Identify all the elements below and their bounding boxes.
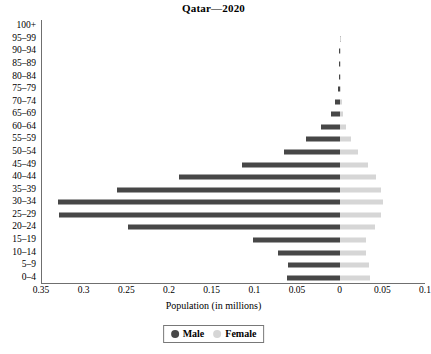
female-bar <box>340 212 382 217</box>
male-bar <box>117 187 340 192</box>
male-bar <box>306 137 340 142</box>
y-axis-tick-label: 80–84 <box>12 72 36 82</box>
female-bar <box>340 162 368 167</box>
x-axis-tick-label: 0.25 <box>118 285 135 296</box>
bar-row <box>41 33 425 46</box>
y-axis-tick-label: 90–94 <box>12 46 36 56</box>
bar-row <box>41 234 425 247</box>
y-axis-tick-label: 50–54 <box>12 147 36 157</box>
male-bar <box>284 149 339 154</box>
plot-area <box>41 20 425 284</box>
female-bar <box>340 124 346 129</box>
female-bar <box>340 175 377 180</box>
y-axis-tick-label: 100+ <box>16 21 36 31</box>
y-axis-tick-label: 25–29 <box>12 210 36 220</box>
y-axis-tick-label: 75–79 <box>12 84 36 94</box>
y-axis-tick-label: 70–74 <box>12 97 36 107</box>
y-axis-tick-label: 45–49 <box>12 160 36 170</box>
x-axis-tick-label: 0.1 <box>248 285 260 296</box>
x-axis-tick-label: 0.05 <box>289 285 306 296</box>
bar-row <box>41 259 425 272</box>
male-bar <box>321 124 339 129</box>
y-axis-tick-label: 85–89 <box>12 59 36 69</box>
bar-row <box>41 45 425 58</box>
bar-row <box>41 246 425 259</box>
female-bar <box>340 225 376 230</box>
female-bar <box>340 275 370 280</box>
female-bar <box>340 87 341 92</box>
chart-title: Qatar—2020 <box>0 2 427 14</box>
female-bar <box>340 237 366 242</box>
bar-row <box>41 196 425 209</box>
male-bar <box>287 275 340 280</box>
bar-row <box>41 95 425 108</box>
female-bar <box>340 263 369 268</box>
bar-row <box>41 146 425 159</box>
female-bar <box>340 187 381 192</box>
female-bar <box>340 112 343 117</box>
y-axis-tick-label: 5–9 <box>22 260 36 270</box>
female-bar <box>340 99 342 104</box>
bar-row <box>41 271 425 284</box>
legend-entry-female: Female <box>213 328 256 339</box>
male-bar <box>288 263 340 268</box>
male-bar <box>331 112 340 117</box>
x-axis-tick-label: 0.35 <box>33 285 50 296</box>
legend-label-female: Female <box>225 328 256 339</box>
bar-row <box>41 108 425 121</box>
bar-row <box>41 83 425 96</box>
x-axis-tick-label: 0.05 <box>374 285 391 296</box>
female-bar <box>340 137 352 142</box>
y-axis-tick-label: 65–69 <box>12 109 36 119</box>
bar-row <box>41 121 425 134</box>
y-axis-tick-label: 55–59 <box>12 134 36 144</box>
bar-row <box>41 70 425 83</box>
x-axis-tick-label: 0.15 <box>203 285 220 296</box>
male-bar <box>128 225 340 230</box>
x-axis-tick-label: 0 <box>337 285 342 296</box>
bar-row <box>41 171 425 184</box>
male-swatch-icon <box>171 330 179 338</box>
x-axis-tick-label: 0.2 <box>163 285 175 296</box>
bar-row <box>41 58 425 71</box>
legend-label-male: Male <box>183 328 205 339</box>
bar-row <box>41 20 425 33</box>
legend-entry-male: Male <box>171 328 205 339</box>
female-bar <box>340 74 341 79</box>
male-bar <box>278 250 339 255</box>
y-axis-tick-labels: 100+95–9990–9485–8980–8475–7970–7465–696… <box>0 20 39 284</box>
bar-row <box>41 209 425 222</box>
x-axis-tick-labels: 0.350.30.250.20.150.10.0500.050.1 <box>0 285 427 299</box>
y-axis-tick-label: 0–4 <box>22 273 36 283</box>
male-bar <box>58 200 340 205</box>
y-axis-tick-label: 10–14 <box>12 248 36 258</box>
y-axis-tick-label: 20–24 <box>12 222 36 232</box>
bar-row <box>41 133 425 146</box>
bar-rows <box>41 20 425 284</box>
female-bar <box>340 149 358 154</box>
x-axis-title: Population (in millions) <box>0 300 427 311</box>
y-axis-tick-label: 30–34 <box>12 197 36 207</box>
male-bar <box>179 175 339 180</box>
bar-row <box>41 221 425 234</box>
x-axis-tick-label: 0.1 <box>419 285 431 296</box>
male-bar <box>242 162 340 167</box>
bar-row <box>41 183 425 196</box>
male-bar <box>253 237 340 242</box>
y-axis-tick-label: 95–99 <box>12 34 36 44</box>
bar-row <box>41 158 425 171</box>
y-axis-tick-label: 15–19 <box>12 235 36 245</box>
female-bar <box>340 200 383 205</box>
y-axis-tick-label: 35–39 <box>12 185 36 195</box>
y-axis-tick-label: 40–44 <box>12 172 36 182</box>
female-swatch-icon <box>213 330 221 338</box>
male-bar <box>59 212 340 217</box>
x-axis-tick-label: 0.3 <box>78 285 90 296</box>
female-bar <box>340 250 366 255</box>
chart-legend: Male Female <box>163 325 265 343</box>
y-axis-tick-label: 60–64 <box>12 122 36 132</box>
